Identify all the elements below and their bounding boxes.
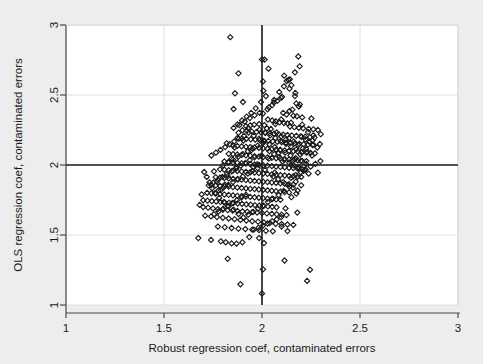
x-tick-label: 3 <box>455 322 461 334</box>
y-tick-label: 1 <box>48 302 60 308</box>
x-tick-label: 2.5 <box>352 322 368 334</box>
x-tick-label: 1.5 <box>156 322 172 334</box>
y-axis-title: OLS regression coef, contaminated errors <box>12 58 24 272</box>
y-tick-label: 1.5 <box>48 227 60 243</box>
y-tick-label: 3 <box>48 22 60 28</box>
x-tick-label: 1 <box>63 322 69 334</box>
chart-canvas: 11.522.53 11.522.53 Robust regression co… <box>0 0 483 364</box>
y-tick-label: 2 <box>48 162 60 168</box>
x-axis-title: Robust regression coef, contaminated err… <box>149 342 376 354</box>
x-tick-label: 2 <box>259 322 265 334</box>
y-tick-label: 2.5 <box>48 87 60 103</box>
scatter-plot-figure: 11.522.53 11.522.53 Robust regression co… <box>0 0 483 364</box>
